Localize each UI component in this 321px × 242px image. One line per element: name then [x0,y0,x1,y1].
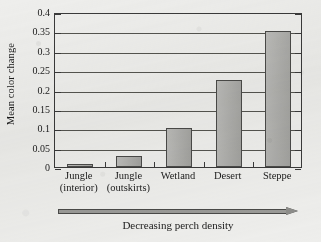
bar-chart-figure: Mean color change 00.050.10.150.20.250.3… [0,0,321,242]
bar [265,31,291,167]
x-category-label: Steppe [263,170,292,182]
y-tick-label: 0.3 [38,47,51,57]
x-category-label: Desert [214,170,241,182]
y-tick-label: 0 [45,163,50,173]
plot-area [54,13,302,168]
x-category-label-line2: (interior) [60,182,98,194]
x-category-label: Wetland [161,170,196,182]
y-axis-tick-labels: 00.050.10.150.20.250.30.350.4 [16,8,52,168]
bar [67,164,93,167]
decreasing-density-arrow [58,207,298,216]
x-category-label-line1: Wetland [161,170,196,181]
x-category-label: Jungle(interior) [60,170,98,193]
x-category-label-line1: Jungle [65,170,92,181]
y-tick-label: 0.05 [33,144,51,154]
x-category-label: Jungle(outskirts) [107,170,150,193]
x-category-label-line1: Desert [214,170,241,181]
bar [116,156,142,167]
y-tick-label: 0.15 [33,105,51,115]
bar [166,128,192,167]
x-category-label-line2: (outskirts) [107,182,150,194]
x-axis-category-labels: Jungle(interior)Jungle(outskirts)Wetland… [54,170,302,200]
bar-series [55,14,301,167]
y-axis-title-text: Mean color change [5,43,16,125]
arrow-shaft-icon [58,209,287,214]
y-tick-label: 0.2 [38,86,51,96]
y-tick-label: 0.1 [38,124,51,134]
y-tick-label: 0.35 [33,27,51,37]
arrow-head-icon [286,207,298,215]
y-tick-label: 0.25 [33,66,51,76]
y-tick-label: 0.4 [38,8,51,18]
x-category-label-line1: Jungle [115,170,142,181]
x-category-label-line1: Steppe [263,170,292,181]
bar [216,80,242,167]
x-axis-title: Decreasing perch density [54,219,302,231]
